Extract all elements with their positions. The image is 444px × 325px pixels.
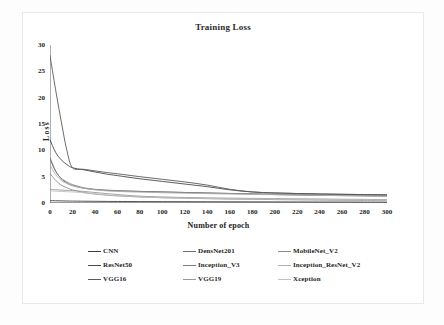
x-axis-tick-label: 300 xyxy=(374,208,400,216)
legend-item-label: DensNet201 xyxy=(198,247,235,255)
legend-item-label: Inception_ResNet_V2 xyxy=(293,261,360,269)
series-line-cnn xyxy=(50,201,387,203)
y-axis-tick-label: 10 xyxy=(23,146,45,154)
chart-figure: Training Loss Loss 051015202530 02040608… xyxy=(0,0,444,325)
training-loss-line-chart xyxy=(50,45,387,203)
legend-line-swatch-icon xyxy=(183,265,196,266)
plot-area: Loss xyxy=(50,45,387,203)
legend-item-label: Xception xyxy=(293,275,321,283)
legend-item-inception-v3[interactable]: Inception_V3 xyxy=(183,261,278,269)
legend-line-swatch-icon xyxy=(278,279,291,280)
y-axis-tick-label: 0 xyxy=(23,199,45,207)
series-lines xyxy=(50,56,387,203)
legend-item-inception-resnet-v2[interactable]: Inception_ResNet_V2 xyxy=(278,261,388,269)
x-axis-label: Number of epoch xyxy=(50,221,387,230)
legend-item-label: VGG16 xyxy=(103,275,126,283)
legend-line-swatch-icon xyxy=(278,265,291,266)
series-line-vgg16 xyxy=(50,56,387,195)
y-axis-tick-label: 5 xyxy=(23,173,45,181)
axis-lines xyxy=(50,45,387,203)
legend-item-cnn[interactable]: CNN xyxy=(88,247,183,255)
y-axis-tick-label: 30 xyxy=(23,41,45,49)
y-axis-tick-label: 25 xyxy=(23,67,45,75)
legend-item-vgg16[interactable]: VGG16 xyxy=(88,275,183,283)
series-line-resnet50 xyxy=(50,140,387,195)
y-axis-tick-label: 15 xyxy=(23,120,45,128)
legend-item-label: VGG19 xyxy=(198,275,221,283)
series-line-inception-resnet-v2 xyxy=(50,165,387,196)
legend-item-xception[interactable]: Xception xyxy=(278,275,388,283)
chart-title: Training Loss xyxy=(22,22,424,32)
legend-item-label: MobileNet_V2 xyxy=(293,247,338,255)
legend-line-swatch-icon xyxy=(183,279,196,280)
legend-item-densnet201[interactable]: DensNet201 xyxy=(183,247,278,255)
legend-item-resnet50[interactable]: ResNet50 xyxy=(88,261,183,269)
tick-marks xyxy=(50,45,387,203)
legend-line-swatch-icon xyxy=(278,251,291,252)
y-axis-tick-label: 20 xyxy=(23,94,45,102)
chart-legend: CNNDensNet201MobileNet_V2ResNet50Incepti… xyxy=(88,244,388,286)
legend-item-label: CNN xyxy=(103,247,118,255)
legend-item-label: ResNet50 xyxy=(103,261,132,269)
legend-line-swatch-icon xyxy=(88,279,101,280)
legend-item-mobilenet-v2[interactable]: MobileNet_V2 xyxy=(278,247,388,255)
legend-item-label: Inception_V3 xyxy=(198,261,240,269)
legend-item-vgg19[interactable]: VGG19 xyxy=(183,275,278,283)
legend-line-swatch-icon xyxy=(183,251,196,252)
legend-line-swatch-icon xyxy=(88,251,101,252)
legend-line-swatch-icon xyxy=(88,265,101,266)
